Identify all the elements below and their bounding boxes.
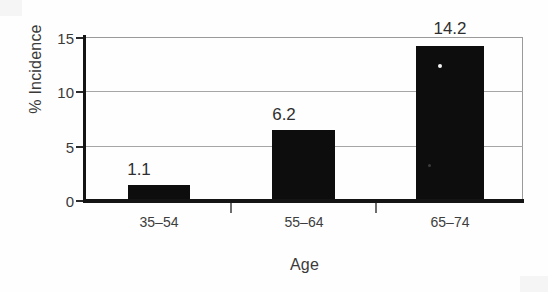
x-axis-title: Age [86,256,523,274]
y-axis-line [83,35,86,203]
scan-speck [438,64,442,68]
scan-artifact [0,0,22,16]
x-tick-mark-1 [230,203,232,213]
x-category-label-35-54: 35–54 [119,214,199,230]
y-tick-label-15: 15 [34,30,74,47]
y-tick-label-5: 5 [34,139,74,156]
value-label-35-54: 1.1 [99,160,179,180]
x-axis-line [83,199,524,203]
value-label-65-74: 14.2 [410,19,490,39]
y-tick-label-10: 10 [34,84,74,101]
value-label-55-64: 6.2 [244,105,324,125]
y-tick-label-0: 0 [34,193,74,210]
bar-55-64 [272,130,335,201]
x-tick-mark-2 [375,203,377,213]
y-axis-title: % Incidence [27,0,45,149]
x-category-label-55-64: 55–64 [264,214,344,230]
scan-artifact [520,276,548,292]
scan-speck [428,164,431,167]
plot-frame-right [522,37,523,201]
bar-65-74 [416,46,484,201]
bar-chart: % Incidence 15 10 5 0 1.1 6.2 14.2 [0,0,548,292]
x-category-label-65-74: 65–74 [410,214,490,230]
